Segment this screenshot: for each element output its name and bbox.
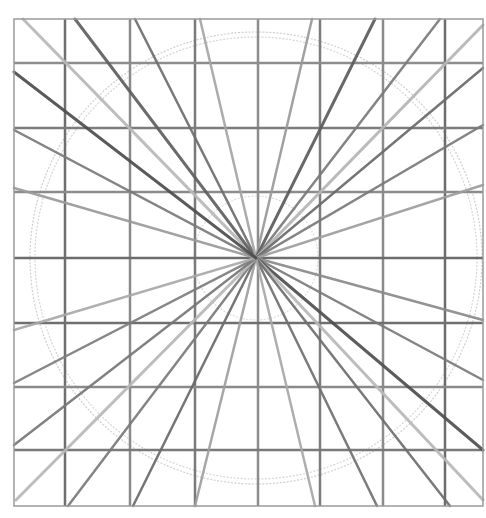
radiating-line <box>14 188 256 258</box>
radiating-line <box>256 258 483 500</box>
pencil-grid-drawing <box>0 0 486 518</box>
radiating-line <box>256 258 483 450</box>
radiating-line <box>195 258 256 506</box>
radiating-line <box>23 19 256 258</box>
radiating-line <box>256 68 483 258</box>
radiating-line <box>256 258 483 380</box>
radiating-line <box>256 258 483 320</box>
radiating-line <box>14 130 256 258</box>
radiating-line <box>256 25 483 258</box>
radiating-line <box>256 258 377 506</box>
radiating-lines <box>14 19 483 506</box>
